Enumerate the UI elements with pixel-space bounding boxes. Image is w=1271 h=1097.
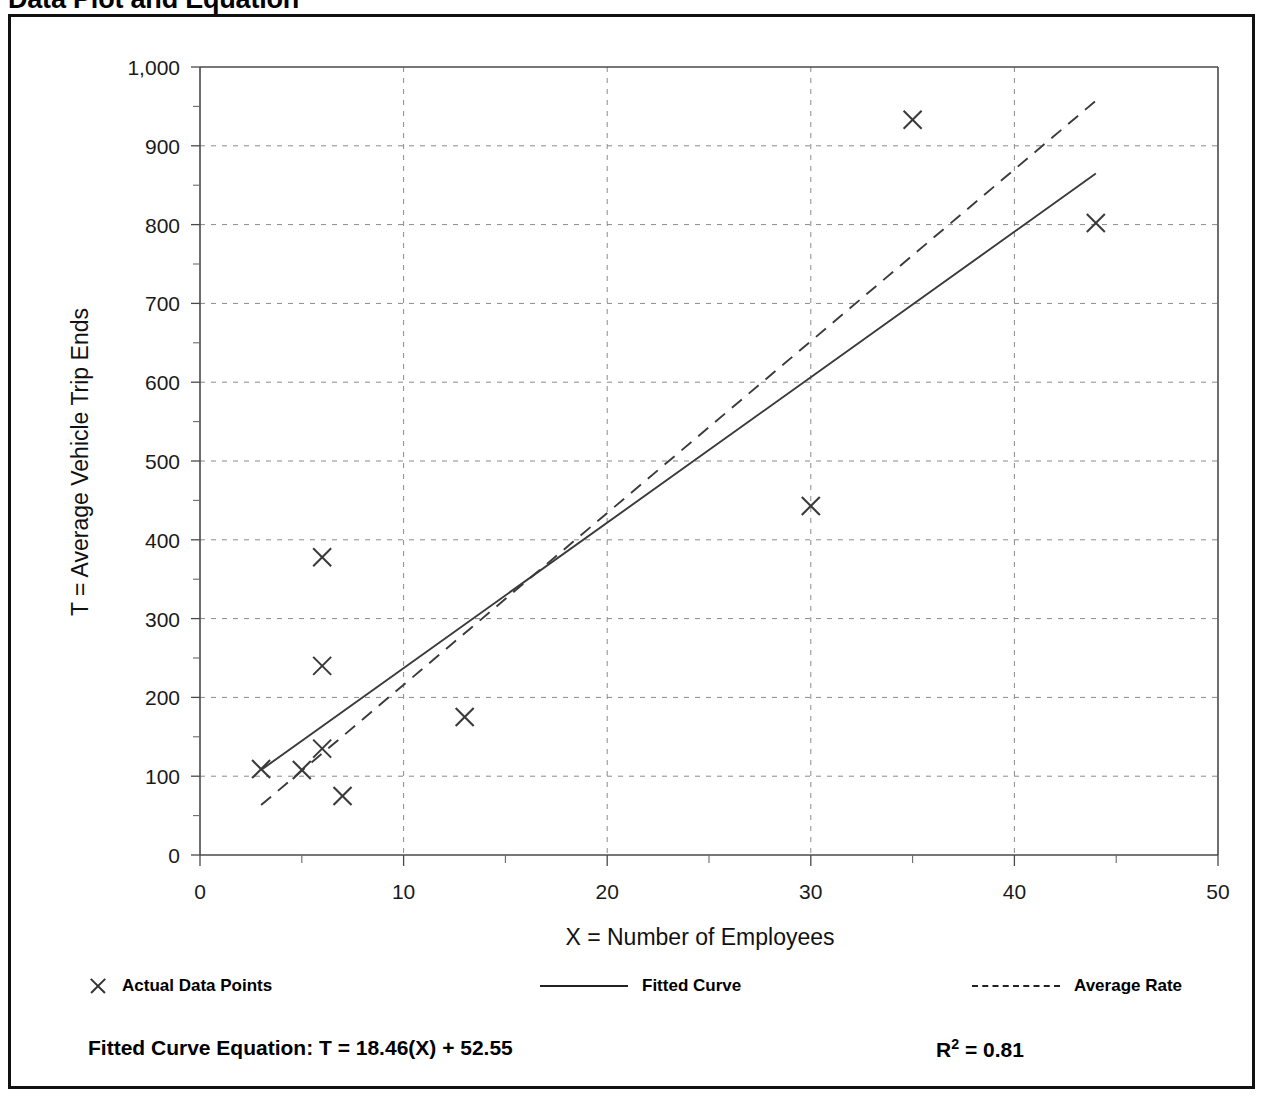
legend-item-fitted-curve: Fitted Curve — [540, 976, 741, 996]
y-tick-label: 0 — [168, 844, 180, 867]
x-tick-label: 40 — [1003, 880, 1026, 903]
legend-label-actual-data-points: Actual Data Points — [122, 976, 272, 996]
solid-line-icon — [540, 985, 628, 987]
data-point-marker — [456, 708, 474, 726]
y-tick-label: 700 — [145, 292, 180, 315]
chart-plot-area: 01002003004005006007008009001,000 010203… — [0, 0, 1271, 1097]
x-axis-ticks — [200, 855, 1218, 866]
actual-data-points — [252, 111, 1105, 805]
legend-item-average-rate: Average Rate — [972, 976, 1182, 996]
x-axis-title: X = Number of Employees — [565, 924, 834, 950]
horizontal-gridlines — [200, 146, 1218, 776]
data-point-marker — [252, 760, 270, 778]
fitted-curve-line — [261, 174, 1096, 770]
r-squared-exponent: 2 — [951, 1036, 959, 1052]
legend-item-actual-data-points: Actual Data Points — [88, 976, 272, 996]
y-axis-tick-labels: 01002003004005006007008009001,000 — [127, 56, 180, 867]
r-squared-number: = 0.81 — [959, 1038, 1024, 1061]
equation-row: Fitted Curve Equation: T = 18.46(X) + 52… — [0, 1036, 1271, 1076]
data-point-marker — [334, 787, 352, 805]
data-point-marker — [904, 111, 922, 129]
y-axis-ticks — [191, 67, 200, 855]
x-axis-tick-labels: 01020304050 — [194, 880, 1230, 903]
x-tick-label: 20 — [596, 880, 619, 903]
average-rate-line — [261, 101, 1096, 805]
fitted-curve-equation: Fitted Curve Equation: T = 18.46(X) + 52… — [88, 1036, 513, 1060]
data-point-marker — [313, 657, 331, 675]
y-axis-title: T = Average Vehicle Trip Ends — [67, 308, 93, 616]
y-tick-label: 200 — [145, 686, 180, 709]
y-tick-label: 500 — [145, 450, 180, 473]
legend-label-average-rate: Average Rate — [1074, 976, 1182, 996]
dashed-line-icon — [972, 985, 1060, 987]
x-tick-label: 50 — [1206, 880, 1229, 903]
r-squared-prefix: R — [936, 1038, 951, 1061]
y-tick-label: 800 — [145, 214, 180, 237]
x-marker-icon — [88, 976, 108, 996]
y-tick-label: 900 — [145, 135, 180, 158]
r-squared-value: R2 = 0.81 — [936, 1036, 1024, 1062]
x-tick-label: 10 — [392, 880, 415, 903]
x-tick-label: 30 — [799, 880, 822, 903]
y-tick-label: 100 — [145, 765, 180, 788]
chart-legend: Actual Data Points Fitted Curve Average … — [0, 972, 1271, 1012]
x-tick-label: 0 — [194, 880, 206, 903]
y-tick-label: 400 — [145, 529, 180, 552]
data-point-marker — [313, 740, 331, 758]
y-tick-label: 300 — [145, 608, 180, 631]
y-tick-label: 600 — [145, 371, 180, 394]
legend-label-fitted-curve: Fitted Curve — [642, 976, 741, 996]
y-tick-label: 1,000 — [127, 56, 180, 79]
data-point-marker — [1087, 214, 1105, 232]
data-point-marker — [313, 548, 331, 566]
